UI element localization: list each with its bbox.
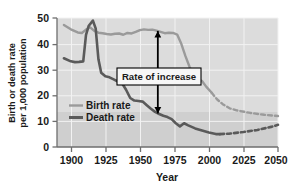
y-axis-ticks bbox=[53, 18, 58, 147]
y-tick-label: 50 bbox=[37, 12, 49, 24]
y-axis-title-line1: Birth or death rate bbox=[7, 43, 17, 123]
x-axis-title: Year bbox=[156, 171, 178, 183]
y-tick-label: 0 bbox=[43, 141, 49, 153]
y-tick-label: 40 bbox=[37, 38, 49, 50]
x-tick-labels: 1900 1925 1950 1975 2000 2025 2050 bbox=[60, 154, 288, 166]
y-tick-label: 10 bbox=[37, 115, 49, 127]
legend-label-death-rate: Death rate bbox=[86, 112, 135, 123]
x-tick-label: 1975 bbox=[163, 154, 187, 166]
y-tick-label: 20 bbox=[37, 89, 49, 101]
x-tick-label: 1900 bbox=[60, 154, 84, 166]
x-tick-label: 1925 bbox=[94, 154, 118, 166]
x-tick-label: 2025 bbox=[232, 154, 256, 166]
y-tick-label: 30 bbox=[37, 64, 49, 76]
annotation-text: Rate of increase bbox=[122, 71, 196, 82]
x-axis-ticks bbox=[72, 147, 279, 152]
y-tick-labels: 0 10 20 30 40 50 bbox=[37, 12, 49, 153]
rate-of-increase-label: Rate of increase bbox=[117, 68, 201, 85]
demographic-transition-figure: 0 10 20 30 40 50 1900 1925 1950 1975 200… bbox=[0, 0, 294, 192]
x-tick-label: 2000 bbox=[198, 154, 222, 166]
legend-label-birth-rate: Birth rate bbox=[86, 100, 131, 111]
x-tick-label: 1950 bbox=[129, 154, 153, 166]
x-tick-label: 2050 bbox=[264, 154, 288, 166]
y-axis-title-line2: per 1,000 population bbox=[18, 38, 28, 128]
chart-canvas: 0 10 20 30 40 50 1900 1925 1950 1975 200… bbox=[0, 0, 294, 192]
